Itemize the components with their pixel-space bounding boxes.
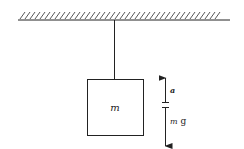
gravity-arrow: m g — [162, 108, 186, 147]
weight-label: m g — [170, 116, 186, 126]
acceleration-label: a — [170, 85, 175, 95]
weight-label-g: g — [178, 116, 187, 126]
mass-block: m — [88, 80, 144, 136]
diagram-canvas: m a m g — [0, 0, 244, 149]
mass-label: m — [110, 102, 119, 113]
acceleration-arrow: a — [162, 78, 175, 103]
ceiling-hatching — [20, 12, 220, 19]
ceiling — [18, 12, 230, 20]
